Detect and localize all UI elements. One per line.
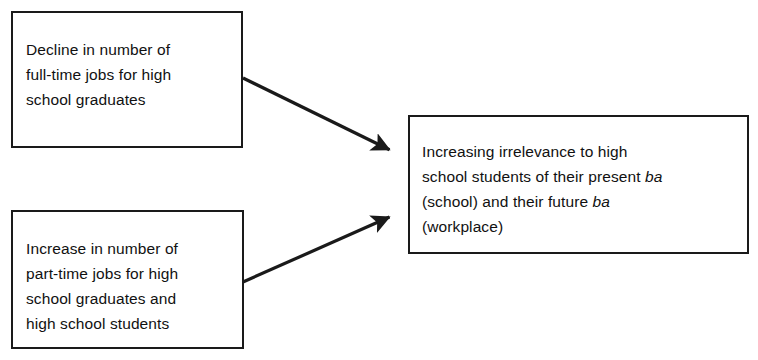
increase-in-part-time-jobs-box: Increase in number of part-time jobs for… — [11, 210, 244, 349]
increase-in-part-time-jobs-label: Increase in number of part-time jobs for… — [26, 236, 236, 336]
text-run: (workplace) — [422, 218, 503, 235]
decline-in-full-time-jobs-box: Decline in number of full-time jobs for … — [11, 11, 243, 148]
increasing-irrelevance-label: Increasing irrelevance to highschool stu… — [422, 139, 741, 239]
decline-in-full-time-jobs-label: Decline in number of full-time jobs for … — [26, 37, 235, 112]
diagram-canvas: Decline in number of full-time jobs for … — [0, 0, 758, 360]
increasing-irrelevance-box: Increasing irrelevance to highschool stu… — [408, 115, 749, 254]
text-run: (school) and their future — [422, 193, 593, 210]
arrow-decline-to-irrelevance — [243, 78, 390, 150]
arrow-increase-to-irrelevance — [243, 217, 389, 282]
text-run: school students of their present — [422, 168, 645, 185]
emphasized-term: ba — [593, 193, 610, 210]
text-run: Increasing irrelevance to high — [422, 143, 627, 160]
emphasized-term: ba — [645, 168, 662, 185]
